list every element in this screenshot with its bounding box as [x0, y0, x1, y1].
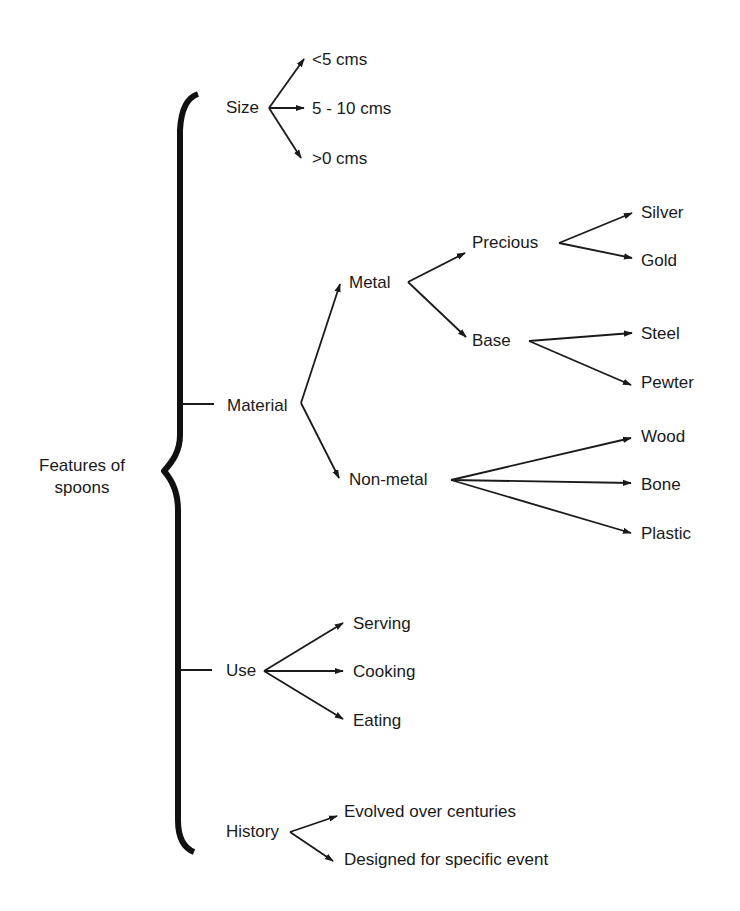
node-use: Use [226, 661, 256, 681]
node-size-lt5: <5 cms [312, 50, 367, 70]
node-material: Material [227, 396, 287, 416]
arrow-precious-silver [559, 213, 632, 243]
spoon-features-diagram: Features of spoons Size <5 cms 5 - 10 cm… [0, 0, 740, 911]
node-plastic: Plastic [641, 524, 691, 544]
arrow-use-serving [264, 623, 343, 671]
arrow-nonmetal-plastic [451, 480, 631, 533]
node-serving: Serving [353, 614, 411, 634]
arrow-use-eating [264, 671, 343, 719]
node-size-5to10: 5 - 10 cms [312, 99, 391, 119]
node-cooking: Cooking [353, 662, 415, 682]
arrow-metal-precious [408, 253, 465, 282]
node-silver: Silver [641, 203, 684, 223]
arrow-material-metal [301, 284, 340, 403]
node-gold: Gold [641, 251, 677, 271]
arrow-history-evolved [290, 816, 337, 832]
arrow-size-lt5 [269, 59, 304, 108]
root-label: Features of spoons [20, 455, 144, 499]
root-label-line1: Features of [20, 455, 144, 477]
node-evolved-over-centuries: Evolved over centuries [344, 802, 516, 822]
node-non-metal: Non-metal [349, 470, 427, 490]
node-size-gt0: >0 cms [312, 149, 367, 169]
node-wood: Wood [641, 427, 685, 447]
arrow-base-steel [529, 333, 632, 341]
node-pewter: Pewter [641, 373, 694, 393]
arrow-material-nonmetal [301, 403, 339, 478]
node-precious: Precious [472, 233, 538, 253]
arrow-base-pewter [529, 341, 631, 385]
arrow-nonmetal-wood [451, 438, 631, 480]
arrow-size-gt0 [269, 108, 301, 158]
node-designed-for-specific-event: Designed for specific event [344, 850, 548, 870]
node-size: Size [226, 98, 259, 118]
curly-brace [164, 94, 198, 852]
arrow-metal-base [408, 282, 466, 337]
node-steel: Steel [641, 324, 680, 344]
arrow-nonmetal-bone [451, 480, 631, 483]
node-history: History [226, 822, 279, 842]
arrow-history-designed [290, 832, 333, 861]
node-base: Base [472, 331, 511, 351]
node-metal: Metal [349, 273, 391, 293]
root-label-line2: spoons [20, 477, 144, 499]
node-bone: Bone [641, 475, 681, 495]
arrow-precious-gold [559, 243, 632, 258]
node-eating: Eating [353, 711, 401, 731]
